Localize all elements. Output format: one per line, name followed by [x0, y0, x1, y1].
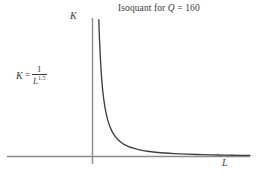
equation-numerator: 1	[34, 65, 45, 74]
chart-title: Isoquant for Q = 160	[118, 4, 200, 14]
isoquant-figure: Isoquant for Q = 160 K L K = 1 L1.5	[0, 0, 256, 179]
equation-denominator: L1.5	[32, 75, 47, 86]
equation-annotation: K = 1 L1.5	[16, 65, 47, 87]
y-axis-label: K	[70, 11, 77, 21]
chart-title-suffix: = 160	[175, 3, 200, 13]
equation-equals: =	[25, 71, 30, 81]
chart-title-prefix: Isoquant for	[118, 3, 168, 13]
equation-denominator-exponent: 1.5	[38, 75, 46, 81]
isoquant-curve	[99, 20, 250, 156]
x-axis-label: L	[222, 158, 228, 168]
chart-title-variable: Q	[168, 3, 175, 13]
equation-lhs: K	[16, 71, 23, 81]
plot-area	[0, 0, 256, 179]
equation-fraction: 1 L1.5	[32, 65, 47, 87]
